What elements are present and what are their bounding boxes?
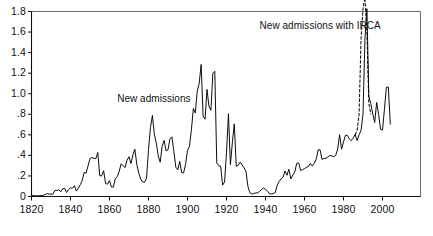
axis-ticks xyxy=(28,12,383,201)
y-tick-label: 1.2 xyxy=(0,66,26,78)
y-tick-label: 1.8 xyxy=(0,5,26,17)
x-tick-label: 1880 xyxy=(129,203,169,215)
y-tick-label: .2 xyxy=(0,169,26,181)
y-tick-label: 1.0 xyxy=(0,87,26,99)
x-tick-label: 1860 xyxy=(90,203,130,215)
chart-container: 0.2.4.6.81.01.21.41.61.8 182018401860188… xyxy=(0,0,433,236)
y-tick-label: .6 xyxy=(0,128,26,140)
x-tick-label: 1840 xyxy=(51,203,91,215)
y-tick-label: .4 xyxy=(0,148,26,160)
x-tick-label: 1980 xyxy=(324,203,364,215)
x-tick-label: 2000 xyxy=(363,203,403,215)
y-tick-label: 1.6 xyxy=(0,25,26,37)
series-new-admissions xyxy=(32,9,391,196)
x-tick-label: 1920 xyxy=(207,203,247,215)
annotation-new-admissions: New admissions xyxy=(117,93,191,104)
line-chart-plot xyxy=(0,0,433,236)
x-tick-label: 1820 xyxy=(12,203,52,215)
y-tick-label: 1.4 xyxy=(0,46,26,58)
y-tick-label: .8 xyxy=(0,107,26,119)
x-tick-label: 1960 xyxy=(285,203,325,215)
x-tick-label: 1900 xyxy=(168,203,208,215)
annotation-new-admissions-with-irca: New admissions with IRCA xyxy=(260,20,381,31)
plot-frame xyxy=(32,12,421,197)
y-tick-label: 0 xyxy=(0,190,26,202)
x-tick-label: 1940 xyxy=(246,203,286,215)
